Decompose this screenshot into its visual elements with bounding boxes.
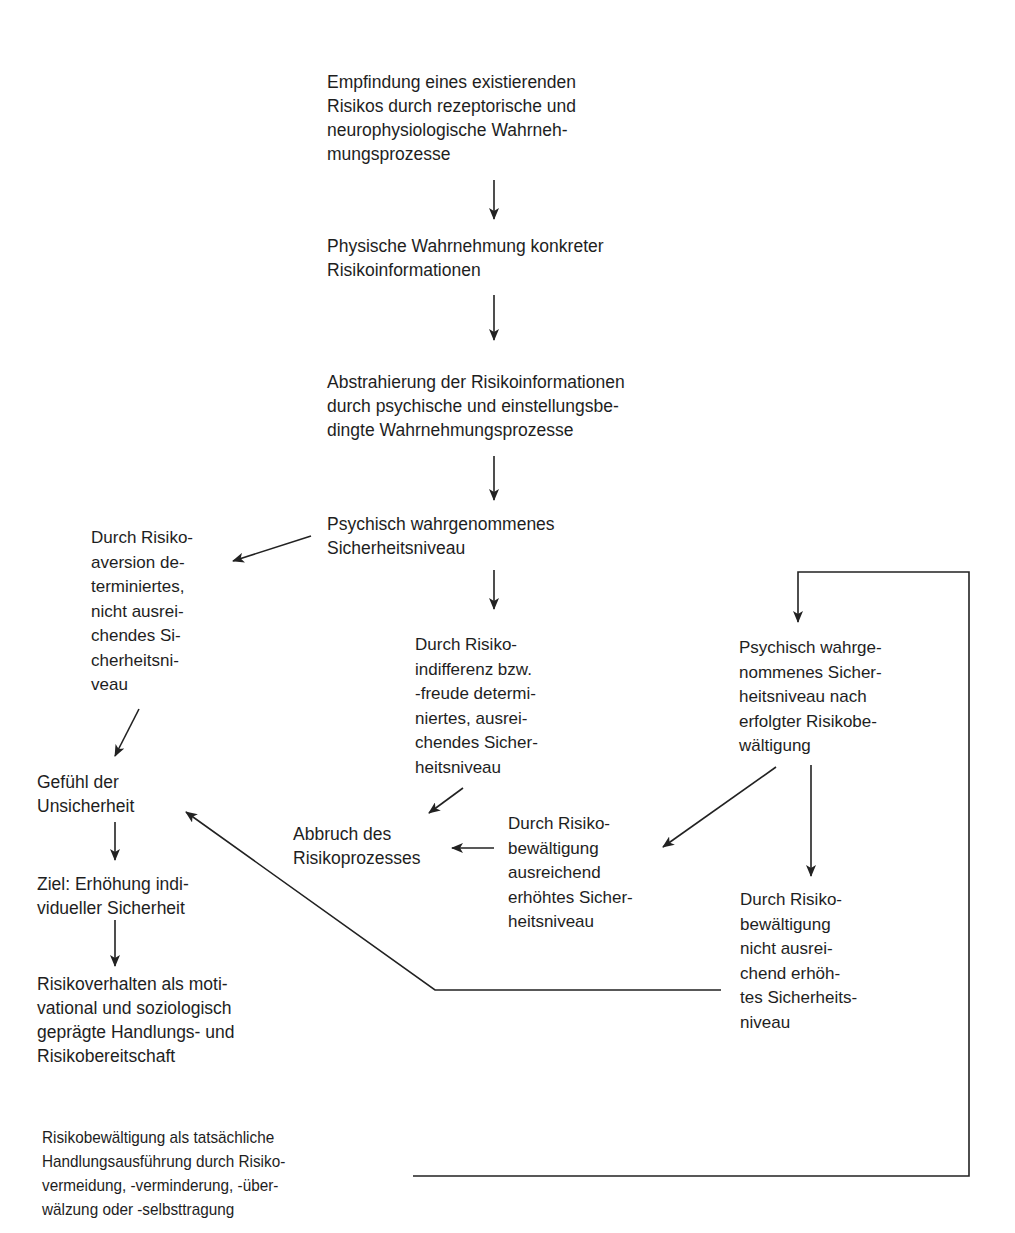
arrow-n5-to-n8 xyxy=(115,709,139,756)
arrow-n12-to-n8 xyxy=(186,812,721,990)
arrow-n6-to-n9 xyxy=(429,788,463,813)
node-risk-behaviour: Risikoverhalten als moti- vational und s… xyxy=(37,972,235,1068)
node-goal-increase-safety: Ziel: Erhöhung indi- vidueller Sicherhei… xyxy=(37,872,189,920)
node-abstraction: Abstrahierung der Risikoinformationen du… xyxy=(327,370,625,442)
node-risk-indifference-sufficient: Durch Risiko- indifferenz bzw. -freude d… xyxy=(415,633,538,780)
node-perceived-safety-level: Psychisch wahrgenommenes Sicherheitsnive… xyxy=(327,512,555,560)
node-risk-aversion-insufficient: Durch Risiko- aversion de- terminiertes,… xyxy=(91,526,193,698)
node-coping-sufficient: Durch Risiko- bewältigung ausreichend er… xyxy=(508,812,633,935)
arrow-n4-to-n5 xyxy=(233,536,311,561)
node-physical-perception: Physische Wahrnehmung konkreter Risikoin… xyxy=(327,234,604,282)
node-coping-insufficient: Durch Risiko- bewältigung nicht ausrei- … xyxy=(740,888,857,1035)
arrow-n7-to-n10 xyxy=(663,767,776,847)
node-risk-coping-action: Risikobewältigung als tatsächliche Handl… xyxy=(42,1126,285,1222)
node-feeling-of-insecurity: Gefühl der Unsicherheit xyxy=(37,770,134,818)
node-abort-risk-process: Abbruch des Risikoprozesses xyxy=(293,822,420,870)
node-perceived-safety-after-coping: Psychisch wahrge- nommenes Sicher- heits… xyxy=(739,636,882,759)
node-perception-sensation: Empfindung eines existierenden Risikos d… xyxy=(327,70,576,166)
